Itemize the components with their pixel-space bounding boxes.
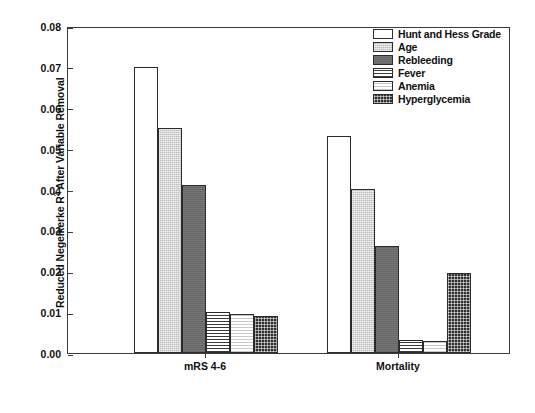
bar-age-mortality xyxy=(351,189,375,353)
y-axis-tick-label: 0.04 xyxy=(41,185,61,197)
legend-label: Hyperglycemia xyxy=(398,93,470,105)
legend-swatch xyxy=(373,94,393,104)
legend-label: Rebleeding xyxy=(398,54,453,66)
legend-item: Rebleeding xyxy=(373,53,501,66)
legend-rows: Hunt and Hess GradeAgeRebleedingFeverAne… xyxy=(373,27,501,105)
bar-hunt-and-hess-grade-mortality xyxy=(327,136,351,353)
legend-item: Anemia xyxy=(373,79,501,92)
bar-hyperglycemia-mrs-4-6 xyxy=(254,316,278,353)
y-axis-tick-label: 0.07 xyxy=(41,62,61,74)
y-axis-tick-mark xyxy=(68,355,73,356)
bar-anemia-mrs-4-6 xyxy=(230,314,254,353)
x-axis-tick-mark xyxy=(398,354,399,358)
legend-label: Anemia xyxy=(398,80,435,92)
legend-swatch xyxy=(373,81,393,91)
legend-item: Hyperglycemia xyxy=(373,92,501,105)
legend-label: Age xyxy=(398,41,417,53)
legend-label: Hunt and Hess Grade xyxy=(398,28,501,40)
bar-hyperglycemia-mortality xyxy=(447,273,471,353)
x-axis-tick-mark xyxy=(205,354,206,358)
legend-swatch xyxy=(373,42,393,52)
bar-rebleeding-mortality xyxy=(375,246,399,353)
y-axis-tick-label: 0.01 xyxy=(41,307,61,319)
legend-swatch xyxy=(373,55,393,65)
y-axis-tick-label: 0.08 xyxy=(41,21,61,33)
legend-label: Fever xyxy=(398,67,425,79)
y-axis-tick-label: 0.00 xyxy=(41,348,61,360)
bar-anemia-mortality xyxy=(423,341,447,353)
bar-rebleeding-mrs-4-6 xyxy=(182,185,206,353)
y-axis-title-tail: After Variable Removal xyxy=(54,78,66,193)
legend-item: Age xyxy=(373,40,501,53)
legend-swatch xyxy=(373,68,393,78)
bar-age-mrs-4-6 xyxy=(158,128,182,353)
y-axis-tick-label: 0.06 xyxy=(41,103,61,115)
y-axis-tick-label: 0.05 xyxy=(41,144,61,156)
legend-item: Hunt and Hess Grade xyxy=(373,27,501,40)
bar-fever-mortality xyxy=(399,340,423,353)
x-axis-tick-label: Mortality xyxy=(376,360,420,372)
y-axis-title-main: Reduced Negelkerke R xyxy=(54,196,66,308)
y-axis-tick-label: 0.03 xyxy=(41,225,61,237)
bar-fever-mrs-4-6 xyxy=(206,312,230,353)
caption-clipped xyxy=(0,402,535,413)
y-axis-tick-label: 0.02 xyxy=(41,266,61,278)
legend: Hunt and Hess GradeAgeRebleedingFeverAne… xyxy=(370,24,505,108)
legend-swatch xyxy=(373,29,393,39)
x-axis-tick-label: mRS 4-6 xyxy=(184,360,226,372)
bar-hunt-and-hess-grade-mrs-4-6 xyxy=(134,67,158,353)
figure-container: Reduced Negelkerke R2 After Variable Rem… xyxy=(0,0,535,413)
legend-item: Fever xyxy=(373,66,501,79)
